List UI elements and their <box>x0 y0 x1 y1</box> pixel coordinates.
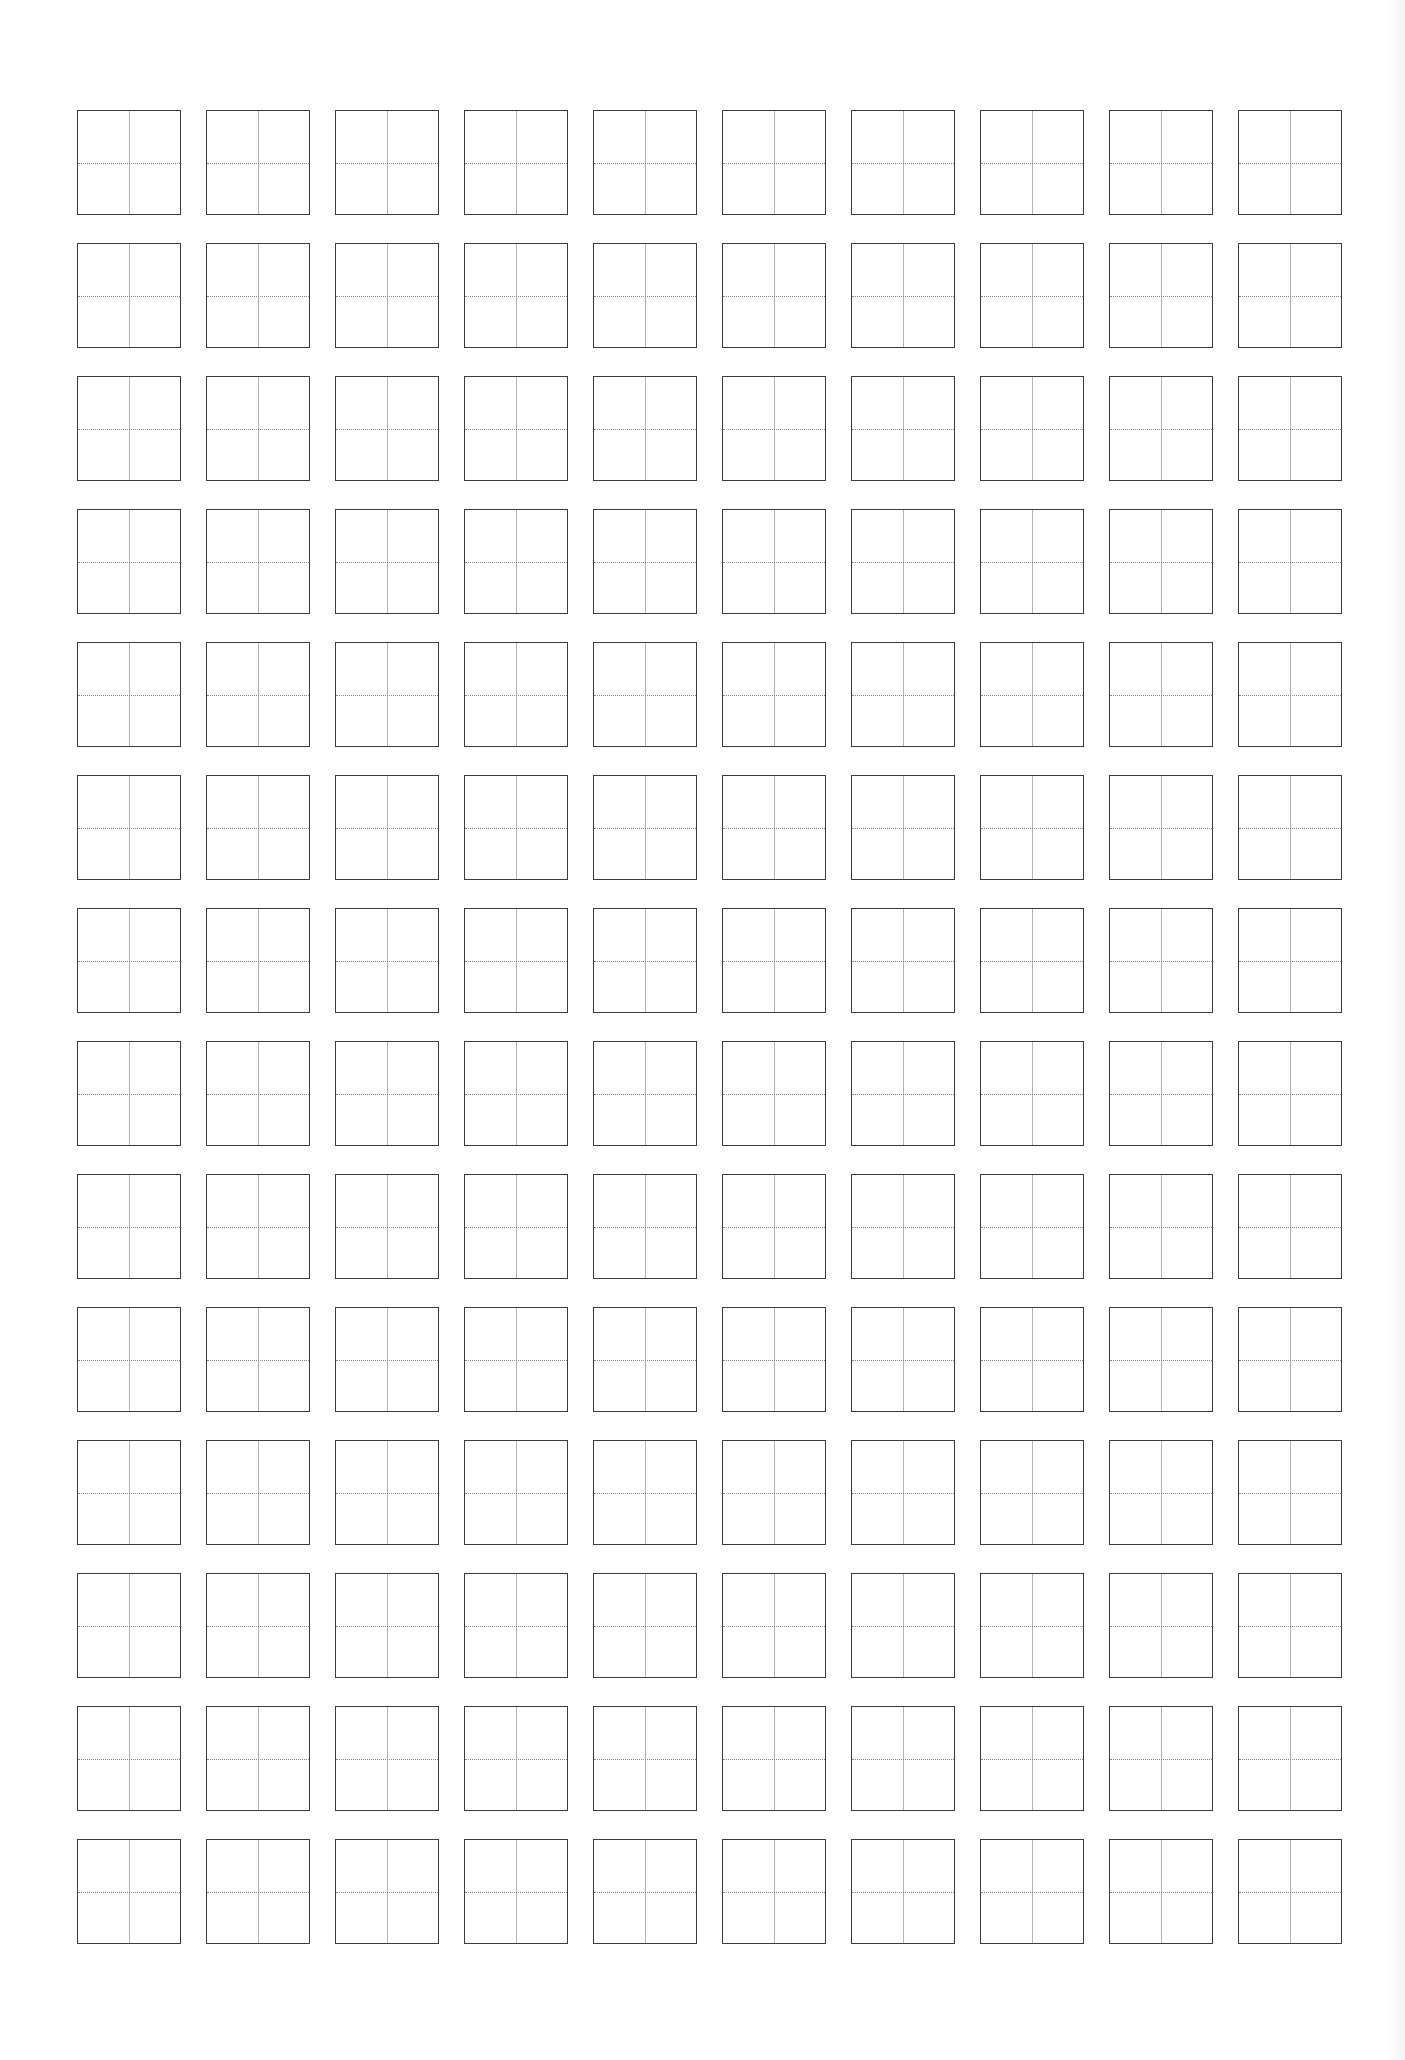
horizontal-guide-line <box>207 1493 309 1494</box>
horizontal-guide-line <box>594 1759 696 1760</box>
practice-cell <box>980 1041 1084 1146</box>
practice-cell <box>464 1706 568 1811</box>
practice-cell <box>464 1440 568 1545</box>
practice-cell <box>1238 642 1342 747</box>
practice-cell <box>851 1440 955 1545</box>
practice-cell <box>335 509 439 614</box>
practice-cell <box>593 1041 697 1146</box>
practice-cell <box>851 1307 955 1412</box>
practice-cell <box>980 642 1084 747</box>
practice-cell <box>851 509 955 614</box>
horizontal-guide-line <box>465 1360 567 1361</box>
practice-cell <box>980 1174 1084 1279</box>
practice-cell <box>593 1174 697 1279</box>
horizontal-guide-line <box>981 562 1083 563</box>
page-edge-shadow <box>1387 0 1405 2060</box>
practice-cell <box>851 376 955 481</box>
practice-cell <box>206 1307 310 1412</box>
horizontal-guide-line <box>1239 429 1341 430</box>
horizontal-guide-line <box>78 1227 180 1228</box>
practice-cell <box>77 908 181 1013</box>
practice-cell <box>77 775 181 880</box>
practice-cell <box>206 1706 310 1811</box>
practice-cell <box>464 642 568 747</box>
horizontal-guide-line <box>78 296 180 297</box>
practice-cell <box>851 908 955 1013</box>
horizontal-guide-line <box>723 429 825 430</box>
practice-cell <box>722 1706 826 1811</box>
practice-cell <box>722 1174 826 1279</box>
practice-cell <box>1109 509 1213 614</box>
practice-cell <box>335 1174 439 1279</box>
horizontal-guide-line <box>723 695 825 696</box>
horizontal-guide-line <box>78 961 180 962</box>
practice-cell <box>1238 1041 1342 1146</box>
practice-cell <box>206 243 310 348</box>
horizontal-guide-line <box>465 1094 567 1095</box>
practice-cell <box>464 509 568 614</box>
practice-cell <box>1238 1174 1342 1279</box>
practice-cell <box>722 1041 826 1146</box>
practice-cell <box>335 1307 439 1412</box>
horizontal-guide-line <box>852 1360 954 1361</box>
horizontal-guide-line <box>336 1626 438 1627</box>
horizontal-guide-line <box>981 1626 1083 1627</box>
horizontal-guide-line <box>336 961 438 962</box>
horizontal-guide-line <box>852 1493 954 1494</box>
horizontal-guide-line <box>207 1626 309 1627</box>
practice-cell <box>593 243 697 348</box>
practice-cell <box>593 1706 697 1811</box>
practice-cell <box>1238 509 1342 614</box>
practice-cell <box>335 243 439 348</box>
horizontal-guide-line <box>852 1094 954 1095</box>
practice-cell <box>851 110 955 215</box>
horizontal-guide-line <box>1110 1493 1212 1494</box>
practice-cell <box>335 1706 439 1811</box>
horizontal-guide-line <box>594 163 696 164</box>
practice-cell <box>464 1307 568 1412</box>
horizontal-guide-line <box>723 1227 825 1228</box>
horizontal-guide-line <box>594 828 696 829</box>
horizontal-guide-line <box>207 1892 309 1893</box>
horizontal-guide-line <box>594 1626 696 1627</box>
practice-cell <box>593 642 697 747</box>
practice-cell <box>1238 1573 1342 1678</box>
practice-cell <box>77 642 181 747</box>
horizontal-guide-line <box>1239 562 1341 563</box>
horizontal-guide-line <box>207 1360 309 1361</box>
practice-cell <box>593 376 697 481</box>
practice-cell <box>593 110 697 215</box>
horizontal-guide-line <box>852 562 954 563</box>
horizontal-guide-line <box>465 429 567 430</box>
horizontal-guide-line <box>852 429 954 430</box>
horizontal-guide-line <box>1239 1892 1341 1893</box>
practice-cell <box>1238 1839 1342 1944</box>
practice-cell <box>1238 1440 1342 1545</box>
practice-grid <box>77 110 1344 1946</box>
horizontal-guide-line <box>981 163 1083 164</box>
practice-cell <box>593 509 697 614</box>
horizontal-guide-line <box>207 961 309 962</box>
horizontal-guide-line <box>594 1227 696 1228</box>
horizontal-guide-line <box>1239 1094 1341 1095</box>
horizontal-guide-line <box>336 1227 438 1228</box>
practice-cell <box>335 1839 439 1944</box>
practice-cell <box>980 775 1084 880</box>
horizontal-guide-line <box>723 562 825 563</box>
horizontal-guide-line <box>78 1759 180 1760</box>
practice-cell <box>206 908 310 1013</box>
practice-cell <box>722 908 826 1013</box>
horizontal-guide-line <box>78 562 180 563</box>
practice-cell <box>1238 1706 1342 1811</box>
horizontal-guide-line <box>207 296 309 297</box>
horizontal-guide-line <box>723 163 825 164</box>
practice-cell <box>980 1573 1084 1678</box>
horizontal-guide-line <box>723 1626 825 1627</box>
horizontal-guide-line <box>207 1094 309 1095</box>
practice-cell <box>335 1440 439 1545</box>
practice-cell <box>722 376 826 481</box>
horizontal-guide-line <box>594 1094 696 1095</box>
practice-cell <box>77 243 181 348</box>
practice-cell <box>980 376 1084 481</box>
horizontal-guide-line <box>1239 828 1341 829</box>
